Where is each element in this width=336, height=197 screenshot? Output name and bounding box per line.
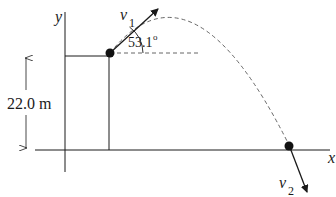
v2-label: v [279, 174, 287, 191]
v1-label: v [120, 6, 128, 23]
projectile-diagram: 22.0 m y x v 1 53.1 o v 2 [0, 0, 336, 197]
landing-point [285, 142, 294, 151]
y-axis-label: y [53, 8, 63, 26]
angle-degree: o [153, 32, 158, 42]
v1-subscript: 1 [129, 16, 135, 30]
launch-point [106, 49, 115, 58]
x-axis-label: x [327, 149, 335, 166]
height-label: 22.0 m [7, 95, 52, 112]
v2-subscript: 2 [288, 184, 294, 197]
angle-label: 53.1 [128, 35, 153, 50]
